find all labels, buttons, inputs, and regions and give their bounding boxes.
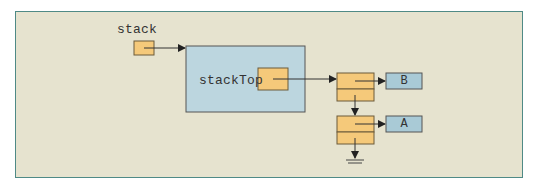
ground-icon bbox=[346, 160, 364, 163]
stacktop-label: stackTop bbox=[199, 73, 263, 88]
value-b-text: B bbox=[386, 74, 422, 88]
stack-label: stack bbox=[117, 22, 157, 37]
value-a-text: A bbox=[386, 117, 422, 131]
linked-stack-diagram bbox=[0, 0, 537, 190]
